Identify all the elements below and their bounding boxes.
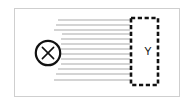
diagram-svg: Y [0,0,192,105]
target-label: Y [144,45,152,57]
diagram-canvas: Y [0,0,192,105]
target-region[interactable]: Y [131,18,158,85]
source-node[interactable] [36,41,60,65]
ray-beam [54,20,130,80]
